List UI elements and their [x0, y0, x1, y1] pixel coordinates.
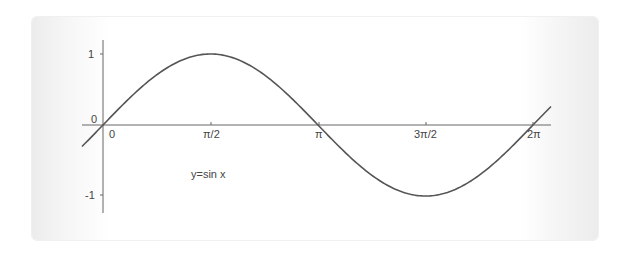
x-label-2pi: 2π [527, 128, 541, 140]
function-label: y=sin x [191, 168, 226, 180]
y-label-neg1: -1 [85, 189, 95, 201]
sine-chart: 1 0 -1 0 π/2 π 3π/2 2π y=sin x [0, 0, 625, 253]
x-label-3pi-2: 3π/2 [414, 128, 437, 140]
x-label-pi: π [315, 128, 323, 140]
origin-label: 0 [91, 113, 97, 125]
y-label-1: 1 [88, 48, 94, 60]
x-label-0: 0 [109, 128, 115, 140]
x-label-pi-2: π/2 [203, 128, 220, 140]
